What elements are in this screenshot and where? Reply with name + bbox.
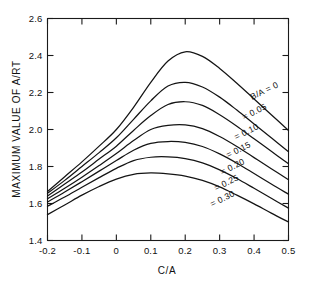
series-labels: B/A = 0= 0.05= 0.10= 0.15= 0.20= 0.25= 0…	[208, 80, 279, 209]
chart-figure: -0.2-0.100.10.20.30.40.5 1.41.61.82.02.2…	[0, 0, 321, 281]
series-label-3: = 0.15	[224, 139, 252, 159]
series-label-0: B/A = 0	[248, 80, 279, 102]
x-tick-label: 0.5	[282, 245, 296, 256]
x-tick-label: -0.1	[73, 245, 90, 256]
y-tick-label: 2.6	[29, 13, 43, 24]
x-tick-label: 0.4	[247, 245, 261, 256]
y-tick-label: 2.2	[29, 87, 43, 98]
curve-series-4	[48, 141, 289, 202]
y-tick-label: 2.0	[29, 124, 43, 135]
y-tick-label: 1.8	[29, 161, 43, 172]
x-tick-label: 0.1	[144, 245, 158, 256]
x-tick-label: 0.2	[178, 245, 192, 256]
y-tick-label: 1.4	[29, 235, 43, 246]
y-axis-title: MAXIMUM VALUE OF A/RT	[11, 60, 22, 197]
series-label-2: = 0.10	[232, 121, 260, 141]
y-tick-label: 1.6	[29, 198, 43, 209]
x-axis-title: C/A	[158, 265, 176, 276]
series-label-6: = 0.30	[208, 188, 236, 208]
x-tick-label: 0	[114, 245, 119, 256]
series-label-1: = 0.05	[240, 101, 268, 121]
data-curves	[48, 52, 289, 222]
x-tick-label: -0.2	[39, 245, 56, 256]
x-tick-label: 0.3	[213, 245, 227, 256]
line-chart: -0.2-0.100.10.20.30.40.5 1.41.61.82.02.2…	[0, 0, 321, 281]
y-tick-labels: 1.41.61.82.02.22.42.6	[29, 13, 43, 246]
x-tick-labels: -0.2-0.100.10.20.30.40.5	[39, 245, 295, 256]
y-tick-label: 2.4	[29, 50, 43, 61]
